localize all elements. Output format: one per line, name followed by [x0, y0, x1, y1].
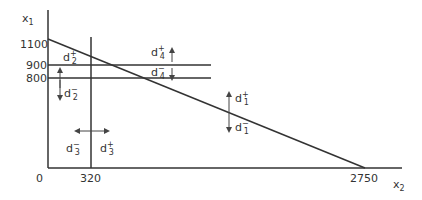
d3-minus-label: d−3 [66, 140, 80, 157]
goal-programming-diagram: x1 x2 1100 900 800 0 320 2750 d+2 d−2 d+… [0, 0, 422, 200]
origin-label: 0 [36, 172, 43, 185]
d3-plus-label: d+3 [100, 140, 114, 157]
x-tick-320: 320 [80, 172, 101, 185]
d4-minus-label: d−4 [151, 64, 165, 81]
x-tick-2750: 2750 [350, 172, 378, 185]
y-tick-900: 900 [26, 59, 47, 72]
y-axis-label: x1 [22, 12, 34, 27]
d1-minus-label: d−1 [235, 119, 249, 136]
y-tick-1100: 1100 [20, 38, 48, 51]
x-axis-label: x2 [393, 178, 405, 193]
d4-plus-label: d+4 [151, 44, 165, 61]
d2-plus-label: d+2 [63, 49, 77, 66]
d2-minus-label: d−2 [64, 85, 78, 102]
d1-plus-label: d+1 [235, 90, 249, 107]
constraint-line-d1 [48, 39, 365, 168]
y-tick-800: 800 [26, 72, 47, 85]
